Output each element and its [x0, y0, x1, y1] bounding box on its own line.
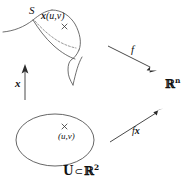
- domain-ellipse: [16, 114, 94, 166]
- surface-shape: [3, 10, 82, 85]
- surface-point-cross-icon: [62, 24, 67, 29]
- domain-ambient-blackboard-R: ℝ: [84, 164, 94, 178]
- patch-dashed-boundary: [35, 21, 76, 48]
- codomain-blackboard-R: ℝ: [165, 77, 175, 91]
- domain-ambient-exponent: 2: [94, 163, 99, 172]
- domain-point-cross-icon: [62, 124, 67, 129]
- diagram-canvas: [0, 0, 196, 189]
- subset-symbol: ⊂: [73, 166, 84, 177]
- f-arrow-label: f: [131, 44, 134, 55]
- codomain-exponent: n: [175, 76, 180, 85]
- fx-label-x: x: [135, 125, 140, 136]
- param-map-arrow-up: [22, 64, 29, 100]
- surface-patch-dashed: [35, 21, 76, 48]
- domain-set-label: U⊂ℝ2: [63, 164, 99, 177]
- surface-label-S: S: [29, 5, 35, 16]
- domain-set-letter: U: [63, 164, 73, 178]
- patch-point-argument: (u,v): [46, 10, 65, 21]
- param-map-label-x: x: [15, 78, 21, 89]
- codomain-label: ℝn: [165, 77, 180, 90]
- domain-point-label: (u,v): [58, 132, 75, 141]
- patch-point-label: x(u,v): [41, 11, 65, 21]
- surface-tail: [73, 57, 82, 85]
- surface-lower-left-fold: [33, 20, 75, 59]
- math-diagram-figure: S x(u,v) x f fx ℝn (u,v) U⊂ℝ2: [0, 0, 196, 189]
- fx-arrow-label: fx: [132, 126, 140, 136]
- f-arrow-head: [147, 67, 157, 73]
